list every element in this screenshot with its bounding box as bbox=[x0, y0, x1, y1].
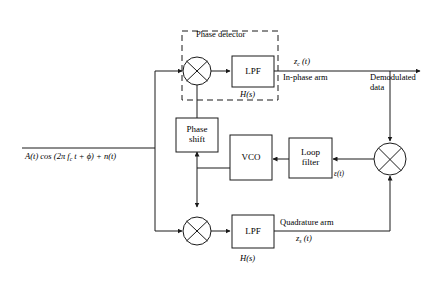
demodulated-output-line2: data bbox=[370, 83, 416, 93]
quadrature-arm-label: Quadrature arm bbox=[280, 218, 334, 228]
zc-label: zc (t) bbox=[294, 57, 310, 67]
zs-label: zs (t) bbox=[296, 234, 312, 244]
in-phase-arm-label: In-phase arm bbox=[283, 73, 328, 83]
phase-shift-box bbox=[176, 118, 218, 152]
loop-filter-box bbox=[289, 138, 332, 178]
zs-tail: (t) bbox=[302, 233, 312, 243]
epsilon-label: ε(t) bbox=[334, 170, 344, 178]
input-signal-head: A(t) cos (2π f bbox=[25, 151, 70, 161]
input-signal-tail: t + ϕ) + n(t) bbox=[72, 151, 116, 161]
diagram-wiring bbox=[0, 0, 435, 283]
costas-loop-diagram: Phase detector LPF H(s) LPF H(s) Phase s… bbox=[0, 0, 435, 283]
lpf-bottom-box bbox=[232, 215, 274, 248]
demodulated-output-label: Demodulated data bbox=[370, 73, 416, 92]
zc-tail: (t) bbox=[300, 56, 310, 66]
lpf-top-box bbox=[232, 56, 274, 87]
lpf-bottom-transfer-label: H(s) bbox=[240, 254, 255, 264]
phase-detector-label: Phase detector bbox=[196, 30, 245, 40]
phase-detector-boundary bbox=[182, 31, 278, 100]
input-signal-label: A(t) cos (2π fc t + ϕ) + n(t) bbox=[25, 152, 116, 162]
lpf-top-transfer-label: H(s) bbox=[240, 90, 255, 100]
vco-box bbox=[230, 135, 272, 180]
